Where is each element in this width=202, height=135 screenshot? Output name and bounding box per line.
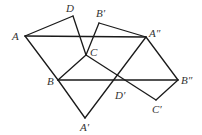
point-label-Bpp: B″ — [181, 74, 193, 86]
point-label-D: D — [65, 2, 74, 14]
segment-Bp-App — [99, 23, 146, 37]
point-label-Ap: A′ — [79, 121, 90, 133]
segment-D-C — [73, 16, 86, 55]
geometry-diagram: ADB′CA″BB″D′C′A′ — [0, 0, 202, 135]
point-label-A: A — [11, 30, 19, 42]
diagram-labels: ADB′CA″BB″D′C′A′ — [11, 2, 193, 133]
point-label-Dp: D′ — [114, 89, 126, 101]
segment-A-B — [25, 36, 58, 80]
segment-B-Ap — [58, 80, 85, 118]
segment-A-D — [25, 16, 73, 36]
segment-Cp-Bpp — [156, 80, 178, 100]
point-label-B: B — [47, 75, 54, 87]
segment-A-App — [25, 36, 146, 37]
point-label-C: C — [90, 46, 98, 58]
point-label-Bp: B′ — [96, 7, 106, 19]
point-label-App: A″ — [148, 27, 161, 39]
point-label-Cp: C′ — [152, 103, 162, 115]
segment-Bpp-App — [146, 37, 178, 80]
segment-B-C — [58, 55, 86, 80]
